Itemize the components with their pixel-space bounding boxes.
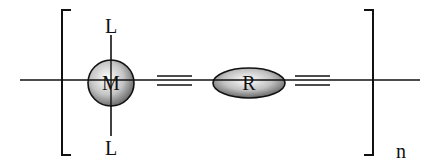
spacer-group: R <box>213 68 285 98</box>
ligand-bottom-label: L <box>105 137 117 159</box>
spacer-label: R <box>242 72 256 94</box>
left-bracket <box>62 10 71 155</box>
metal-label: M <box>102 72 120 94</box>
polymer-repeat-unit-diagram: M L L R n <box>0 0 436 167</box>
repeat-subscript: n <box>396 140 406 162</box>
ligand-top-label: L <box>105 15 117 37</box>
metal-center: M <box>88 60 134 106</box>
right-bracket <box>364 10 373 155</box>
